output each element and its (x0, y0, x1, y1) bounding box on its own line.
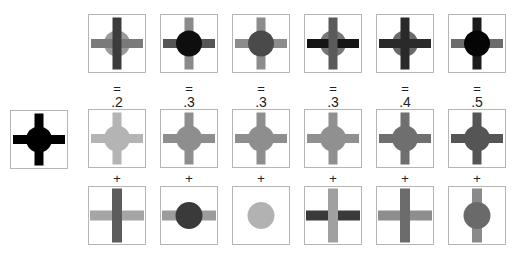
circle-shape (248, 202, 275, 229)
vertical-bar-shape (329, 18, 338, 70)
weight-value-label: .4 (376, 95, 434, 109)
circle-shape (26, 127, 52, 153)
circle-shape (464, 202, 491, 229)
vertical-bar-shape (401, 18, 410, 70)
weight-value-label: .5 (448, 95, 506, 109)
weight-value-label: .3 (160, 95, 218, 109)
composite-panel (160, 14, 218, 73)
uniform-gray-panel (304, 109, 362, 168)
circle-shape (248, 126, 274, 152)
component-panel (304, 186, 362, 245)
vertical-bar-shape (113, 18, 122, 70)
circle-shape (320, 126, 346, 152)
component-panel (88, 186, 146, 245)
weight-value-label: .2 (88, 95, 146, 109)
circle-shape (392, 126, 418, 152)
vertical-bar-shape (112, 189, 122, 243)
plus-sign: + (160, 172, 218, 185)
composite-panel (448, 14, 506, 73)
plus-sign: + (304, 172, 362, 185)
component-panel (376, 186, 434, 245)
component-panel (448, 186, 506, 245)
component-panel (160, 186, 218, 245)
composite-panel (88, 14, 146, 73)
uniform-gray-panel (232, 109, 290, 168)
vertical-bar-shape (328, 189, 338, 243)
circle-shape (464, 31, 490, 57)
weight-value-label: .3 (232, 95, 290, 109)
uniform-gray-panel (376, 109, 434, 168)
plus-sign: + (448, 172, 506, 185)
reference-panel (10, 110, 68, 169)
circle-shape (248, 31, 274, 57)
composite-panel (376, 14, 434, 73)
circle-shape (176, 202, 203, 229)
vertical-bar-shape (400, 189, 410, 243)
weight-value-label: .3 (304, 95, 362, 109)
component-panel (232, 186, 290, 245)
composite-panel (232, 14, 290, 73)
circle-shape (104, 126, 130, 152)
uniform-gray-panel (160, 109, 218, 168)
plus-sign: + (232, 172, 290, 185)
composite-panel (304, 14, 362, 73)
circle-shape (176, 126, 202, 152)
uniform-gray-panel (448, 109, 506, 168)
uniform-gray-panel (88, 109, 146, 168)
plus-sign: + (376, 172, 434, 185)
circle-shape (464, 126, 490, 152)
plus-sign: + (88, 172, 146, 185)
circle-shape (176, 31, 202, 57)
